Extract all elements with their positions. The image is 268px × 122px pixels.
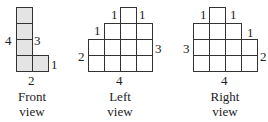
left-view-cell [120,39,137,56]
right-view-cell [225,55,242,72]
left-view-cell [88,55,105,72]
left-view-cell [104,55,121,72]
right-view-cell [241,39,258,56]
left-view-dimension-label: 1 [94,24,101,37]
right-view-cell [209,55,226,72]
left-view-dimension-label: 4 [116,74,123,87]
left-view-cell [120,23,137,40]
right-view-cell [193,55,210,72]
left-view-dimension-label: 2 [78,50,85,63]
right-view-dimension-label: 1 [247,26,254,39]
front-view-dimension-label: 2 [28,74,35,87]
right-view-caption: Right [195,90,255,104]
left-view-cell [136,55,153,72]
left-view-cell [104,39,121,56]
left-view-dimension-label: 3 [155,42,162,55]
front-view-cell [16,55,33,72]
front-view-cell [16,23,33,40]
right-view-cell [193,39,210,56]
front-view-caption-sub: view [2,105,62,119]
right-view-dimension-label: 1 [200,8,207,21]
right-view-cell [225,23,242,40]
front-view-cell [16,7,33,24]
right-view-cell [193,23,210,40]
left-view-cell [104,23,121,40]
front-view-cell [32,55,49,72]
right-view-dimension-label: 1 [230,8,237,21]
left-view-cell [88,39,105,56]
right-view-cell [209,39,226,56]
right-view-cell [225,39,242,56]
front-view-dimension-label: 4 [5,34,12,47]
front-view-cell [16,39,33,56]
left-view-cell [120,55,137,72]
left-view-dimension-label: 1 [111,8,118,21]
right-view-dimension-label: 3 [183,42,190,55]
front-view-caption: Front [2,90,62,104]
right-view-dimension-label: 4 [221,74,228,87]
right-view-cell [209,7,226,24]
left-view-caption-sub: view [90,105,150,119]
right-view-cell [209,23,226,40]
left-view-cell [136,23,153,40]
front-view-dimension-label: 1 [51,58,58,71]
left-view-cell [120,7,137,24]
right-view-cell [241,55,258,72]
left-view-dimension-label: 1 [139,8,146,21]
right-view-caption-sub: view [195,105,255,119]
front-view-dimension-label: 3 [34,34,41,47]
right-view-dimension-label: 2 [260,50,267,63]
left-view-cell [136,39,153,56]
left-view-caption: Left [90,90,150,104]
